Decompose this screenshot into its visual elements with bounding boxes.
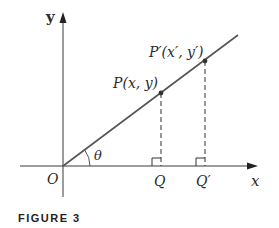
y-axis-label: y [45,8,56,26]
y-axis-arrow-icon [60,12,67,23]
angle-label: θ [94,148,102,163]
foot-q-label: Q [154,173,166,189]
x-axis-arrow-icon [247,163,258,170]
origin-label: O [47,171,59,187]
figure-caption: FIGURE 3 [18,212,81,224]
figure-diagram: y x O θ P(x, y) P′(x′, y′) Q Q′ FIGURE 3 [0,0,279,228]
right-angle-mark-q-prime [196,158,205,166]
point-p-label: P(x, y) [112,75,158,91]
right-angle-mark-q [152,158,161,166]
angle-arc [85,150,90,166]
point-p-prime-label: P′(x′, y′) [148,44,204,60]
x-axis-label: x [251,172,260,190]
foot-q-prime-label: Q′ [196,173,211,189]
point-p [159,91,164,96]
